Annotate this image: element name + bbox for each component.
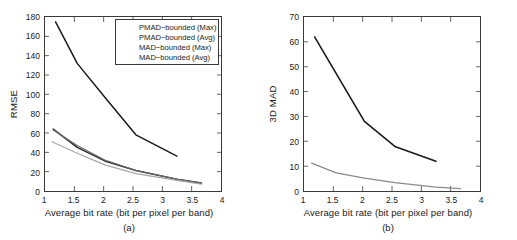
x-tick-label: 3.5 xyxy=(439,196,463,205)
y-axis-label: 3D MAD xyxy=(267,16,281,192)
legend-a: PMAD−bounded (Max) PMAD−bounded (Avg) MA… xyxy=(115,19,219,65)
panel-caption: (b) xyxy=(259,222,517,233)
legend-label: PMAD−bounded (Avg) xyxy=(139,33,215,42)
legend-item: MAD−bounded (Max) xyxy=(118,42,215,52)
series-mad-bounded-max xyxy=(53,130,201,183)
x-axis-label: Average bit rate (bit per pixel per band… xyxy=(259,207,517,218)
series-pmad-bounded-avg xyxy=(53,129,201,183)
legend-item: MAD−bounded (Avg) xyxy=(118,52,215,62)
plot-area-b xyxy=(303,16,481,192)
figure-container: 180 160 140 120 100 80 60 40 20 0 RMSE xyxy=(0,0,517,240)
panel-caption: (a) xyxy=(0,222,258,233)
x-tick-label: 3 xyxy=(410,196,434,205)
legend-label: MAD−bounded (Max) xyxy=(139,43,211,52)
x-tick-label: 1 xyxy=(291,196,315,205)
x-tick-label: 1.5 xyxy=(321,196,345,205)
panel-a: 180 160 140 120 100 80 60 40 20 0 RMSE xyxy=(0,0,258,240)
x-tick-label: 2 xyxy=(91,196,115,205)
x-tick-label: 2.5 xyxy=(121,196,145,205)
x-tick-marks-b xyxy=(333,17,450,191)
x-tick-label: 2 xyxy=(350,196,374,205)
series-mad-bounded-avg xyxy=(52,142,202,185)
y-tick-marks-b xyxy=(304,42,480,166)
legend-label: PMAD−bounded (Max) xyxy=(139,23,216,32)
y-axis-label: RMSE xyxy=(8,16,22,192)
x-tick-label: 1.5 xyxy=(62,196,86,205)
legend-item: PMAD−bounded (Max) xyxy=(118,22,215,32)
x-tick-label: 3 xyxy=(151,196,175,205)
x-tick-label: 4 xyxy=(469,196,493,205)
x-tick-label: 1 xyxy=(32,196,56,205)
x-axis-label: Average bit rate (bit per pixel per band… xyxy=(0,207,258,218)
plot-lines-b xyxy=(304,17,480,191)
legend-label: MAD−bounded (Avg) xyxy=(139,53,210,62)
legend-item: PMAD−bounded (Avg) xyxy=(118,32,215,42)
x-tick-label: 2.5 xyxy=(380,196,404,205)
series-pmad-bounded xyxy=(315,37,436,161)
series-mad-bounded xyxy=(312,163,461,188)
panel-b: 70 60 50 40 30 20 10 0 3D MAD xyxy=(259,0,517,240)
x-tick-label: 4 xyxy=(210,196,234,205)
x-tick-label: 3.5 xyxy=(180,196,204,205)
